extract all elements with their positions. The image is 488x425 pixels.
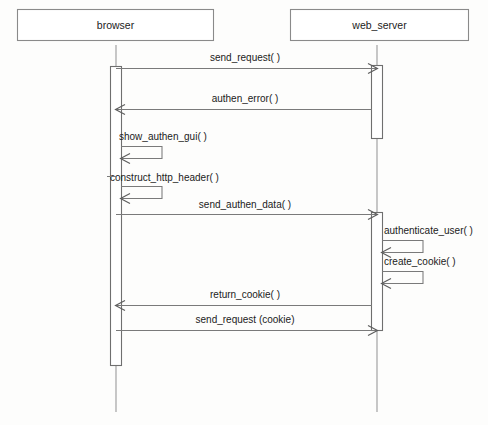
message-authen-error[interactable]: authen_error( ) <box>116 93 373 115</box>
message-label-return-cookie: return_cookie( ) <box>210 289 280 300</box>
message-send-request-cookie[interactable]: send_request (cookie) <box>116 314 378 336</box>
message-send-authen-data[interactable]: send_authen_data( ) <box>116 199 378 220</box>
sequence-diagram-canvas: browser web_server send_request( ) authe… <box>0 0 488 425</box>
message-label-send-request: send_request( ) <box>210 52 280 63</box>
self-loop-create-cookie <box>382 272 423 284</box>
activation-bar-web-server-1 <box>372 66 383 139</box>
self-loop-construct-http-header <box>121 187 162 199</box>
message-label-construct-http-header: construct_http_header( ) <box>110 172 219 183</box>
message-label-show-authen-gui: show_authen_gui( ) <box>119 131 207 142</box>
message-label-send-request-cookie: send_request (cookie) <box>196 314 295 325</box>
message-authenticate-user[interactable]: authenticate_user( ) <box>382 225 473 258</box>
message-show-authen-gui[interactable]: show_authen_gui( ) <box>119 131 207 164</box>
message-label-send-authen-data: send_authen_data( ) <box>199 199 291 210</box>
self-loop-show-authen-gui <box>121 147 162 159</box>
message-send-request[interactable]: send_request( ) <box>116 52 378 74</box>
self-loop-authenticate-user <box>382 241 423 253</box>
message-label-authenticate-user: authenticate_user( ) <box>384 225 473 236</box>
message-create-cookie[interactable]: create_cookie( ) <box>382 256 456 289</box>
message-label-create-cookie: create_cookie( ) <box>384 256 456 267</box>
message-label-authen-error: authen_error( ) <box>212 93 279 104</box>
participant-web-server[interactable]: web_server <box>291 10 469 41</box>
activation-bar-web-server-2 <box>372 213 383 331</box>
participant-browser[interactable]: browser <box>18 10 214 41</box>
sequence-diagram-svg: browser web_server send_request( ) authe… <box>0 0 488 425</box>
message-return-cookie[interactable]: return_cookie( ) <box>116 289 373 311</box>
participant-label-browser: browser <box>97 19 135 31</box>
participant-label-web-server: web_server <box>351 19 407 31</box>
